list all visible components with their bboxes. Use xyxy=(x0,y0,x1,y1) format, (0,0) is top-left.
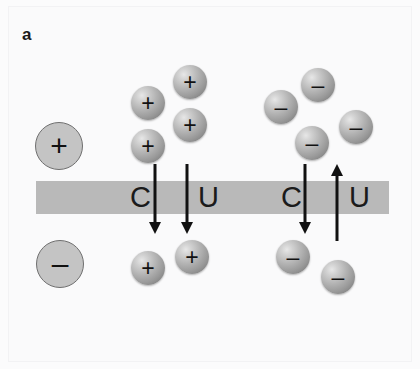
ion-charge-glyph: – xyxy=(301,68,335,102)
ion-reservoir-positive: + xyxy=(35,122,83,170)
ion-charge-glyph: + xyxy=(173,108,207,142)
panel-letter: a xyxy=(22,26,31,43)
ion-charge-glyph: + xyxy=(131,86,165,120)
arrow-right-u-icon xyxy=(328,164,346,241)
ion-neg-upper-4: – xyxy=(295,126,329,160)
ion-pos-lower-2: + xyxy=(175,240,209,274)
ion-charge-glyph: + xyxy=(131,129,165,163)
ion-pos-upper-3: + xyxy=(173,108,207,142)
ion-neg-lower-1: – xyxy=(276,240,310,274)
ion-neg-upper-1: – xyxy=(301,68,335,102)
ion-pos-upper-1: + xyxy=(131,86,165,120)
ion-charge-glyph: + xyxy=(36,123,82,169)
ion-charge-glyph: – xyxy=(37,241,83,287)
ion-charge-glyph: – xyxy=(276,240,310,274)
ion-charge-glyph: – xyxy=(339,110,373,144)
arrow-left-c-icon xyxy=(146,164,164,234)
ion-neg-lower-2: – xyxy=(321,260,355,294)
ion-charge-glyph: – xyxy=(295,126,329,160)
ion-pos-upper-2: + xyxy=(173,65,207,99)
ion-charge-glyph: + xyxy=(175,240,209,274)
ion-pos-lower-1: + xyxy=(131,251,165,285)
ion-charge-glyph: + xyxy=(131,251,165,285)
pathway-label-left-u: U xyxy=(198,183,219,212)
ion-neg-upper-2: – xyxy=(264,90,298,124)
arrow-left-u-icon xyxy=(178,164,196,234)
figure-panel: a CUCU +–++++––––++–– xyxy=(0,0,420,369)
pathway-label-right-u: U xyxy=(349,183,370,212)
ion-charge-glyph: – xyxy=(264,90,298,124)
ion-pos-upper-4: + xyxy=(131,129,165,163)
arrow-right-c-icon xyxy=(296,164,314,234)
ion-reservoir-negative: – xyxy=(36,240,84,288)
ion-neg-upper-3: – xyxy=(339,110,373,144)
ion-charge-glyph: + xyxy=(173,65,207,99)
ion-charge-glyph: – xyxy=(321,260,355,294)
